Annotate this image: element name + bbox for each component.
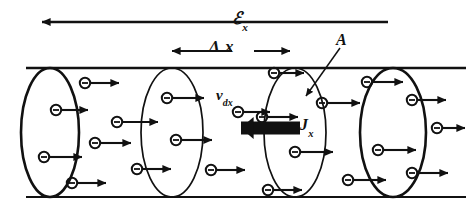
electron-2 <box>51 105 88 115</box>
electron-22 <box>432 123 465 133</box>
current-density-subscript: x <box>308 128 313 139</box>
electron-1 <box>80 78 119 88</box>
drift-velocity-subscript: dx <box>223 97 233 108</box>
current-density-symbol: J <box>300 116 308 133</box>
current-density-label: Jx <box>300 117 313 137</box>
electron-20 <box>407 95 446 105</box>
electron-8 <box>132 164 171 174</box>
electron-19 <box>373 145 416 155</box>
electron-6 <box>90 138 131 148</box>
electron-4 <box>112 117 158 127</box>
electron-10 <box>206 165 245 175</box>
drift-velocity-label: vdx <box>216 88 233 106</box>
internal-disk-1 <box>141 68 203 197</box>
electron-15 <box>290 147 333 157</box>
electron-13 <box>257 112 298 122</box>
electron-9 <box>67 178 106 188</box>
delta-x-symbol: Δ x <box>209 37 234 56</box>
electron-12 <box>269 68 304 78</box>
area-label: A <box>336 32 347 48</box>
field-symbol: ℰ <box>232 8 242 28</box>
electric-field-label: ℰx <box>232 10 248 31</box>
electron-18 <box>362 77 403 87</box>
area-symbol: A <box>336 31 347 48</box>
current-density-figure: ℰx Δ x A vdx Jx <box>0 0 466 212</box>
electron-16 <box>343 175 386 185</box>
area-leader-line <box>306 48 340 96</box>
drift-velocity-symbol: v <box>216 87 223 103</box>
figure-canvas <box>0 0 466 212</box>
electron-7 <box>171 135 212 145</box>
electron-17 <box>263 185 302 195</box>
field-subscript: x <box>242 21 248 33</box>
electron-21 <box>407 168 448 178</box>
delta-x-label: Δ x <box>209 38 234 55</box>
